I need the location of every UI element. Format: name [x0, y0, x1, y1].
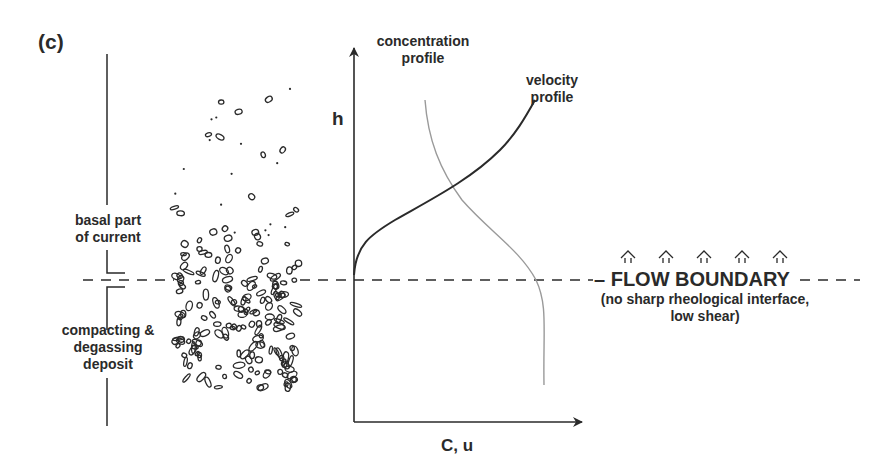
particle-column [170, 88, 303, 392]
velocity-curve [354, 100, 535, 275]
velocity-profile-label: velocity profile [512, 72, 592, 106]
y-axis-label: h [332, 108, 344, 130]
upward-arrows [621, 251, 787, 263]
label-basal-part: basal part of current [62, 212, 154, 246]
concentration-curve [425, 100, 544, 385]
panel-label: (c) [38, 30, 64, 54]
label-compacting-deposit: compacting & degassing deposit [52, 322, 164, 373]
flow-boundary-note: (no sharp rheological interface, low she… [587, 291, 823, 325]
flow-boundary-title: – FLOW BOUNDARY [594, 268, 790, 290]
concentration-profile-label: concentration profile [368, 33, 478, 67]
x-axis-label: C, u [441, 436, 473, 456]
